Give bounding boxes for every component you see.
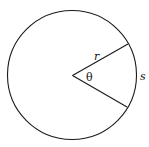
arc-length-label: s (140, 70, 146, 83)
radius-label: r (94, 50, 100, 63)
radius-line-lower (73, 76, 128, 108)
radius-line-upper (73, 44, 129, 76)
circle-sector-diagram: r θ s (0, 0, 149, 147)
angle-label: θ (86, 71, 93, 84)
circle-outline (8, 11, 137, 140)
